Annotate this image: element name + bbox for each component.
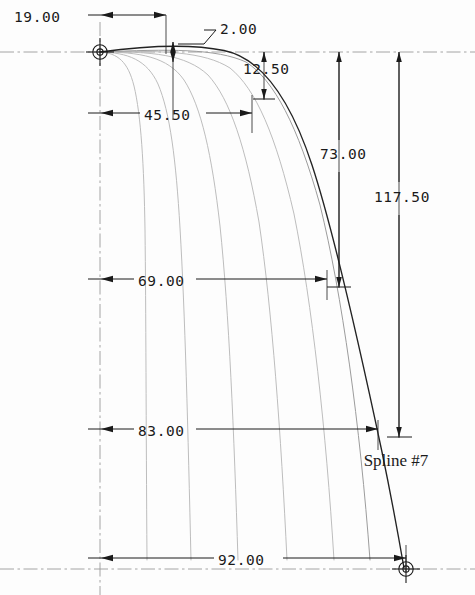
dimension-73: 73.00 <box>320 52 367 288</box>
dimension-12-50: 12.50 <box>243 52 290 100</box>
origin-center-mark <box>86 38 114 66</box>
dimension-19-text: 19.00 <box>14 9 61 25</box>
spline-curve-5 <box>100 51 334 560</box>
dimension-45-50-text: 45.50 <box>144 107 191 123</box>
spline-curve-4 <box>100 52 287 560</box>
dimension-69: 69.00 <box>88 270 327 300</box>
spline-curve-1 <box>100 52 147 560</box>
dimension-2-text: 2.00 <box>220 21 257 37</box>
dimension-117-50: 117.50 <box>374 52 430 438</box>
dimension-92-text: 92.00 <box>218 552 265 568</box>
dimension-83-text: 83.00 <box>138 423 185 439</box>
spline-7-label: Spline #7 <box>364 451 429 470</box>
drawing-svg: 19.00 2.00 12.50 <box>0 0 475 595</box>
dimension-69-text: 69.00 <box>138 273 185 289</box>
dimension-117-50-text: 117.50 <box>374 189 430 205</box>
dimension-12-50-text: 12.50 <box>243 61 290 77</box>
dimension-73-text: 73.00 <box>320 146 367 162</box>
dimension-92: 92.00 <box>88 545 406 572</box>
cad-drawing-canvas: 19.00 2.00 12.50 <box>0 0 475 595</box>
spline-curve-3 <box>100 52 238 560</box>
